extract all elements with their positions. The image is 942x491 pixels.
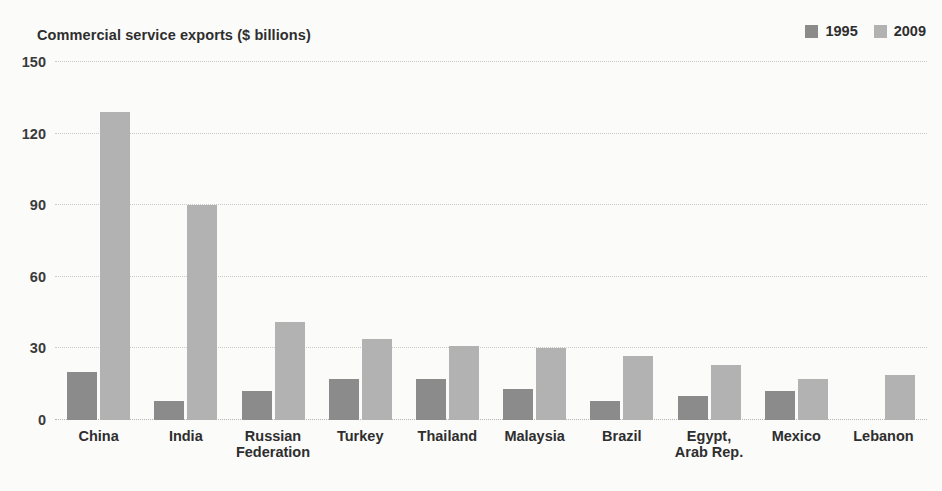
bar-1995[interactable] xyxy=(416,379,446,420)
x-axis-category-label: Mexico xyxy=(753,428,840,460)
x-axis-category-label: China xyxy=(55,428,142,460)
y-axis-tick-label: 60 xyxy=(30,269,46,285)
bar-1995[interactable] xyxy=(503,389,533,420)
bar-group xyxy=(840,62,927,420)
bar-1995[interactable] xyxy=(590,401,620,420)
x-axis-category-label: Thailand xyxy=(404,428,491,460)
y-axis-tick-label: 30 xyxy=(30,340,46,356)
bar-group xyxy=(229,62,316,420)
bar-2009[interactable] xyxy=(711,365,741,420)
y-axis-tick-label: 120 xyxy=(22,126,46,142)
bar-group xyxy=(665,62,752,420)
bar-2009[interactable] xyxy=(362,339,392,420)
chart-legend: 1995 2009 xyxy=(805,24,926,39)
chart-figure: Commercial service exports ($ billions) … xyxy=(0,0,942,491)
bar-group xyxy=(404,62,491,420)
bar-1995[interactable] xyxy=(154,401,184,420)
bar-2009[interactable] xyxy=(536,348,566,420)
bar-2009[interactable] xyxy=(187,205,217,420)
bar-1995[interactable] xyxy=(242,391,272,420)
bar-group xyxy=(491,62,578,420)
bar-2009[interactable] xyxy=(100,112,130,420)
bar-2009[interactable] xyxy=(449,346,479,420)
bar-group xyxy=(142,62,229,420)
bar-1995[interactable] xyxy=(765,391,795,420)
bar-1995[interactable] xyxy=(67,372,97,420)
bar-2009[interactable] xyxy=(798,379,828,420)
x-axis-category-label: Lebanon xyxy=(840,428,927,460)
x-axis-category-label: Turkey xyxy=(317,428,404,460)
bar-2009[interactable] xyxy=(275,322,305,420)
legend-swatch-1995 xyxy=(805,25,818,38)
bar-group xyxy=(317,62,404,420)
chart-title: Commercial service exports ($ billions) xyxy=(37,27,311,43)
x-axis-category-labels: ChinaIndiaRussian FederationTurkeyThaila… xyxy=(55,428,927,460)
y-axis-tick-label: 150 xyxy=(22,54,46,70)
x-axis-category-label: Russian Federation xyxy=(229,428,316,460)
bar-2009[interactable] xyxy=(623,356,653,420)
y-axis-tick-label: 0 xyxy=(38,412,46,428)
bar-1995[interactable] xyxy=(329,379,359,420)
y-axis-tick-label: 90 xyxy=(30,197,46,213)
bar-group xyxy=(578,62,665,420)
legend-label-2009: 2009 xyxy=(894,24,926,39)
legend-item-1995: 1995 xyxy=(805,24,857,39)
x-axis-category-label: Egypt, Arab Rep. xyxy=(665,428,752,460)
bar-groups xyxy=(55,62,927,420)
legend-label-1995: 1995 xyxy=(825,24,857,39)
bar-group xyxy=(753,62,840,420)
x-axis-category-label: India xyxy=(142,428,229,460)
plot-area: 0306090120150 xyxy=(55,62,927,420)
x-axis-category-label: Brazil xyxy=(578,428,665,460)
bar-group xyxy=(55,62,142,420)
bar-2009[interactable] xyxy=(885,375,915,420)
x-axis-category-label: Malaysia xyxy=(491,428,578,460)
legend-swatch-2009 xyxy=(874,25,887,38)
bar-1995[interactable] xyxy=(678,396,708,420)
legend-item-2009: 2009 xyxy=(874,24,926,39)
